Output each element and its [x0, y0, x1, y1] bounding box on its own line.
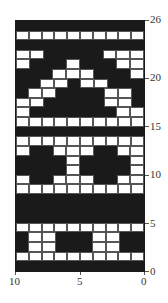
dark-stitch-cell [92, 98, 104, 108]
dark-stitch-cell [106, 127, 119, 137]
dark-stitch-cell [28, 79, 40, 89]
light-stitch-cell [54, 136, 67, 146]
dark-stitch-cell [67, 204, 80, 214]
dark-stitch-cell [91, 50, 103, 60]
dark-stitch-cell [54, 213, 67, 223]
light-stitch-cell [53, 175, 67, 185]
dark-stitch-cell [118, 69, 130, 79]
light-stitch-cell [118, 31, 131, 41]
light-stitch-cell [80, 146, 94, 156]
dark-stitch-cell [104, 59, 116, 69]
light-stitch-cell [118, 136, 131, 146]
light-stitch-cell [117, 146, 131, 156]
dark-stitch-cell [54, 194, 67, 204]
dark-stitch-cell [44, 50, 56, 60]
dark-stitch-cell [118, 40, 131, 50]
y-tick [145, 223, 149, 224]
light-stitch-cell [42, 232, 56, 242]
light-stitch-cell [93, 117, 106, 127]
light-stitch-cell [42, 117, 55, 127]
dark-stitch-cell [30, 107, 42, 117]
dark-stitch-cell [106, 69, 118, 79]
light-stitch-cell [67, 117, 80, 127]
dark-stitch-cell [16, 261, 29, 271]
light-stitch-cell [66, 175, 80, 185]
dark-stitch-cell [16, 165, 28, 175]
light-stitch-cell [106, 232, 120, 242]
dark-stitch-cell [131, 40, 144, 50]
chart-row-3 [16, 242, 144, 252]
light-stitch-cell [104, 88, 118, 98]
chart-row-10 [16, 175, 144, 185]
y-tick [145, 271, 149, 272]
light-stitch-cell [130, 146, 144, 156]
chart-row-20 [16, 79, 144, 89]
dark-stitch-cell [132, 242, 144, 252]
dark-stitch-cell [93, 21, 106, 31]
dark-stitch-cell [118, 194, 131, 204]
dark-stitch-cell [106, 21, 119, 31]
dark-stitch-cell [42, 194, 55, 204]
dark-stitch-cell [54, 40, 67, 50]
light-stitch-cell [80, 252, 93, 262]
light-stitch-cell [116, 50, 130, 60]
dark-stitch-cell [93, 40, 106, 50]
light-stitch-cell [118, 98, 132, 108]
light-stitch-cell [16, 59, 30, 69]
x-label-5: 5 [77, 276, 83, 287]
dark-stitch-cell [131, 127, 144, 137]
light-stitch-cell [16, 136, 29, 146]
light-stitch-cell [130, 59, 144, 69]
light-stitch-cell [130, 165, 144, 175]
dark-stitch-cell [67, 107, 79, 117]
dark-stitch-cell [54, 21, 67, 31]
dark-stitch-cell [108, 79, 120, 89]
y-tick [145, 126, 149, 127]
dark-stitch-cell [118, 213, 131, 223]
light-stitch-cell [29, 136, 42, 146]
light-stitch-cell [67, 184, 80, 194]
dark-stitch-cell [80, 88, 92, 98]
dark-stitch-cell [79, 50, 91, 60]
dark-stitch-cell [42, 40, 55, 50]
light-stitch-cell [106, 252, 119, 262]
dark-stitch-cell [80, 156, 92, 166]
dark-stitch-cell [16, 232, 28, 242]
y-label-0: 0 [150, 266, 156, 277]
chart-row-11 [16, 165, 144, 175]
dark-stitch-cell [120, 242, 132, 252]
light-stitch-cell [92, 232, 106, 242]
light-stitch-cell [54, 79, 68, 89]
chart-row-1 [16, 261, 144, 271]
chart-row-8 [16, 194, 144, 204]
dark-stitch-cell [42, 21, 55, 31]
dark-stitch-cell [29, 21, 42, 31]
light-stitch-cell [80, 117, 93, 127]
light-stitch-cell [30, 50, 44, 60]
dark-stitch-cell [53, 156, 65, 166]
dark-stitch-cell [94, 175, 106, 185]
light-stitch-cell [131, 117, 144, 127]
light-stitch-cell [106, 117, 119, 127]
light-stitch-cell [80, 79, 94, 89]
light-stitch-cell [130, 156, 144, 166]
dark-stitch-cell [92, 88, 104, 98]
dark-stitch-cell [132, 79, 144, 89]
chart-row-17 [16, 107, 144, 117]
light-stitch-cell [116, 59, 130, 69]
dark-stitch-cell [131, 261, 144, 271]
dark-stitch-cell [16, 79, 28, 89]
chart-row-19 [16, 88, 144, 98]
dark-stitch-cell [16, 213, 29, 223]
light-stitch-cell [29, 184, 42, 194]
light-stitch-cell [131, 223, 144, 233]
light-stitch-cell [117, 175, 131, 185]
light-stitch-cell [67, 223, 80, 233]
dark-stitch-cell [29, 213, 42, 223]
light-stitch-cell [118, 252, 131, 262]
dark-stitch-cell [42, 107, 54, 117]
dark-stitch-cell [68, 79, 80, 89]
light-stitch-cell [130, 69, 144, 79]
light-stitch-cell [42, 242, 56, 252]
dark-stitch-cell [56, 242, 68, 252]
